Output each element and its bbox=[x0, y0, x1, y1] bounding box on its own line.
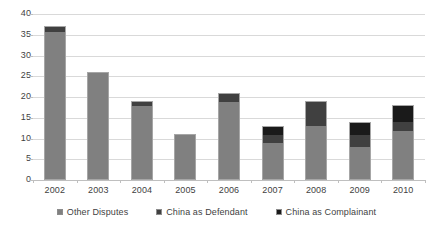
x-axis: 200220032004200520062007200820092010 bbox=[33, 180, 425, 202]
bar-group[interactable] bbox=[262, 14, 284, 180]
x-axis-tickmark bbox=[207, 180, 208, 183]
bar-segment[interactable] bbox=[393, 122, 413, 130]
bar-segment[interactable] bbox=[219, 94, 239, 102]
x-axis-tick-label: 2008 bbox=[294, 185, 338, 196]
y-axis-tick-label: 10 bbox=[5, 134, 31, 143]
x-axis-tick-label: 2007 bbox=[251, 185, 295, 196]
x-axis-tickmark bbox=[164, 180, 165, 183]
bar-segment[interactable] bbox=[263, 135, 283, 143]
bar-segment[interactable] bbox=[263, 127, 283, 135]
x-axis-tick-label: 2002 bbox=[33, 185, 77, 196]
bar-stack[interactable] bbox=[262, 126, 284, 180]
y-axis-tick-label: 25 bbox=[5, 71, 31, 80]
bar-stack[interactable] bbox=[131, 101, 153, 180]
legend-label: China as Complainant bbox=[286, 207, 377, 217]
chart-container: 0510152025303540 20022003200420052006200… bbox=[0, 0, 433, 230]
bar-stack[interactable] bbox=[174, 134, 196, 180]
legend-item[interactable]: China as Complainant bbox=[276, 207, 377, 217]
y-axis-tick-label: 0 bbox=[5, 175, 31, 184]
x-axis-tickmark bbox=[338, 180, 339, 183]
bar-group[interactable] bbox=[349, 14, 371, 180]
bar-segment[interactable] bbox=[88, 73, 108, 179]
x-axis-tickmark bbox=[33, 180, 34, 183]
bar-segment[interactable] bbox=[393, 131, 413, 179]
bar-group[interactable] bbox=[174, 14, 196, 180]
legend-label: China as Defendant bbox=[166, 207, 247, 217]
bar-segment[interactable] bbox=[175, 135, 195, 179]
x-axis-tick-label: 2009 bbox=[338, 185, 382, 196]
legend-swatch-icon bbox=[57, 209, 63, 215]
x-axis-tick-label: 2004 bbox=[120, 185, 164, 196]
bar-group[interactable] bbox=[218, 14, 240, 180]
y-axis-tick-label: 30 bbox=[5, 51, 31, 60]
bar-stack[interactable] bbox=[305, 101, 327, 180]
legend-swatch-icon bbox=[156, 209, 162, 215]
bar-stack[interactable] bbox=[44, 26, 66, 180]
bar-segment[interactable] bbox=[306, 102, 326, 126]
legend-swatch-icon bbox=[276, 209, 282, 215]
y-axis-tick-label: 5 bbox=[5, 154, 31, 163]
bar-segment[interactable] bbox=[263, 143, 283, 179]
y-axis-tick-label: 15 bbox=[5, 113, 31, 122]
x-axis-tickmark bbox=[77, 180, 78, 183]
x-axis-tick-label: 2003 bbox=[77, 185, 121, 196]
x-axis-tickmark bbox=[425, 180, 426, 183]
legend-item[interactable]: Other Disputes bbox=[57, 207, 128, 217]
bar-stack[interactable] bbox=[392, 105, 414, 180]
y-axis-tick-label: 40 bbox=[5, 9, 31, 18]
legend-label: Other Disputes bbox=[67, 207, 128, 217]
bars-layer bbox=[33, 14, 425, 180]
bar-stack[interactable] bbox=[218, 93, 240, 180]
x-axis-tickmark bbox=[120, 180, 121, 183]
bar-segment[interactable] bbox=[306, 126, 326, 179]
x-axis-tickmark bbox=[294, 180, 295, 183]
bar-segment[interactable] bbox=[350, 135, 370, 147]
legend-item[interactable]: China as Defendant bbox=[156, 207, 247, 217]
bar-group[interactable] bbox=[305, 14, 327, 180]
bar-stack[interactable] bbox=[87, 72, 109, 180]
y-axis-tick-label: 35 bbox=[5, 30, 31, 39]
bar-segment[interactable] bbox=[219, 102, 239, 179]
bar-group[interactable] bbox=[131, 14, 153, 180]
bar-group[interactable] bbox=[87, 14, 109, 180]
bar-group[interactable] bbox=[44, 14, 66, 180]
bar-segment[interactable] bbox=[350, 123, 370, 135]
y-axis: 0510152025303540 bbox=[0, 14, 31, 180]
x-axis-tick-label: 2010 bbox=[381, 185, 425, 196]
bar-segment[interactable] bbox=[350, 147, 370, 179]
bar-segment[interactable] bbox=[393, 106, 413, 122]
x-axis-tick-label: 2006 bbox=[207, 185, 251, 196]
bar-group[interactable] bbox=[392, 14, 414, 180]
x-axis-tickmark bbox=[381, 180, 382, 183]
bar-segment[interactable] bbox=[45, 32, 65, 179]
bar-stack[interactable] bbox=[349, 122, 371, 180]
bar-segment[interactable] bbox=[132, 106, 152, 179]
chart-legend: Other DisputesChina as DefendantChina as… bbox=[0, 204, 433, 220]
y-axis-tick-label: 20 bbox=[5, 92, 31, 101]
x-axis-tick-label: 2005 bbox=[164, 185, 208, 196]
x-axis-tickmark bbox=[251, 180, 252, 183]
